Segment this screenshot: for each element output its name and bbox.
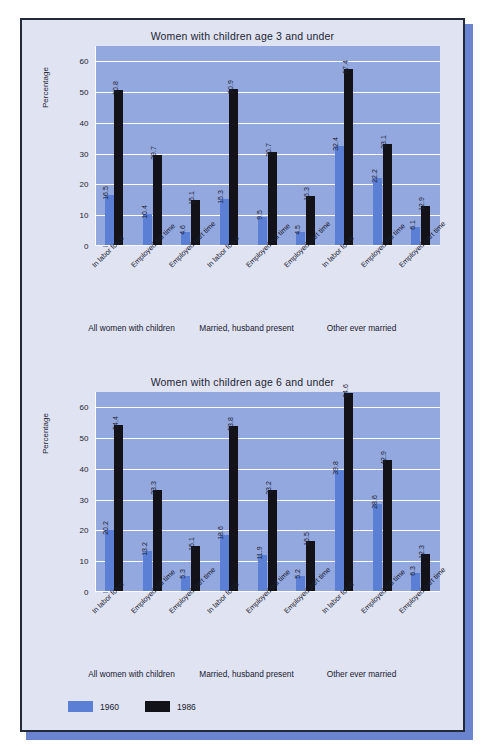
- chart-women-children-age-3: Women with children age 3 and under Perc…: [22, 30, 463, 360]
- bar-value-label: 4.6: [179, 225, 186, 235]
- x-axis-group-label: Married, husband present: [199, 323, 294, 333]
- bar-series-container: 16.550.810.429.74.615.115.350.99.530.74.…: [96, 46, 440, 246]
- bar-value-label: 50.9: [227, 81, 234, 95]
- bar-1960: 20.2: [105, 530, 114, 592]
- y-axis-tick-label: 30: [80, 495, 89, 504]
- plot-area-wrapper: Percentage 0102030405060 20.254.413.233.…: [43, 392, 443, 607]
- bar-value-label: 22.2: [371, 169, 378, 183]
- bar-1986: 53.8: [229, 426, 238, 592]
- bar-value-label: 18.6: [217, 526, 224, 540]
- bar-value-label: 33.1: [380, 135, 387, 149]
- x-axis-group-label: Other ever married: [327, 323, 397, 333]
- y-axis-ticks: 0102030405060: [57, 392, 95, 592]
- bar-value-label: 53.8: [227, 418, 234, 432]
- legend-item: 1986: [145, 701, 196, 712]
- x-axis-group-label: All women with children: [88, 323, 175, 333]
- bar-value-label: 15.3: [217, 190, 224, 204]
- x-axis-group-label: All women with children: [88, 669, 175, 679]
- bar-1986: 42.9: [383, 460, 392, 592]
- bar-1986: 64.6: [344, 393, 353, 592]
- chart-title: Women with children age 6 and under: [22, 376, 463, 388]
- y-axis-tick-label: 20: [80, 526, 89, 535]
- bar-value-label: 57.4: [342, 61, 349, 75]
- bar-1960: 18.6: [220, 535, 229, 592]
- bar-1960: 32.4: [335, 146, 344, 246]
- legend-swatch-1986: [145, 701, 170, 712]
- bar-value-label: 15.1: [188, 537, 195, 551]
- x-axis-group-labels: All women with childrenMarried, husband …: [74, 323, 419, 339]
- y-axis-tick-label: 40: [80, 464, 89, 473]
- bar-value-label: 32.4: [332, 138, 339, 152]
- chart-legend: 19601986: [22, 701, 463, 712]
- bar-value-label: 10.4: [141, 205, 148, 219]
- y-axis-ticks: 0102030405060: [57, 46, 95, 246]
- bar-1986: 50.8: [114, 90, 123, 246]
- bar-value-label: 6.3: [409, 566, 416, 576]
- bar-series-container: 20.254.413.233.35.315.118.653.811.933.25…: [96, 392, 440, 592]
- y-axis-label: Percentage: [41, 67, 50, 108]
- bar-value-label: 16.5: [102, 186, 109, 200]
- bar-value-label: 16.5: [303, 532, 310, 546]
- bar-1960: 39.8: [335, 470, 344, 592]
- bar-value-label: 16.3: [303, 187, 310, 201]
- bar-value-label: 5.2: [294, 569, 301, 579]
- plot-area-wrapper: Percentage 0102030405060 16.550.810.429.…: [43, 46, 443, 261]
- bar-value-label: 20.2: [102, 521, 109, 535]
- bar-1960: 28.6: [373, 504, 382, 592]
- bar-value-label: 33.3: [150, 481, 157, 495]
- y-axis-label: Percentage: [41, 413, 50, 454]
- bar-value-label: 30.7: [265, 143, 272, 157]
- bar-1960: 16.5: [105, 195, 114, 246]
- bar-value-label: 29.7: [150, 146, 157, 160]
- bar-value-label: 6.1: [409, 220, 416, 230]
- bar-value-label: 12.3: [418, 545, 425, 559]
- legend-label: 1960: [100, 702, 119, 712]
- bar-value-label: 50.8: [112, 81, 119, 95]
- bar-value-label: 12.9: [418, 198, 425, 212]
- y-axis-tick-label: 50: [80, 434, 89, 443]
- bar-1986: 54.4: [114, 425, 123, 592]
- bar-value-label: 42.9: [380, 451, 387, 465]
- y-axis-tick-label: 30: [80, 149, 89, 158]
- y-axis-tick-label: 10: [80, 557, 89, 566]
- plot-area: 16.550.810.429.74.615.115.350.99.530.74.…: [95, 46, 440, 246]
- bar-1960: 22.2: [373, 178, 382, 246]
- chart-page: Women with children age 3 and under Perc…: [20, 18, 465, 732]
- plot-area: 20.254.413.233.35.315.118.653.811.933.25…: [95, 392, 440, 592]
- bar-value-label: 4.5: [294, 225, 301, 235]
- y-axis-tick-label: 0: [84, 242, 88, 251]
- legend-item: 1960: [68, 701, 119, 712]
- legend-swatch-1960: [68, 701, 93, 712]
- x-axis-group-label: Other ever married: [327, 669, 397, 679]
- y-axis-tick-label: 0: [84, 588, 88, 597]
- y-axis-tick-label: 50: [80, 88, 89, 97]
- bar-value-label: 64.6: [342, 384, 349, 398]
- bar-value-label: 11.9: [256, 547, 263, 560]
- x-axis-category-labels: In labor forceEmployed full timeEmployed…: [74, 607, 419, 669]
- x-axis-group-labels: All women with childrenMarried, husband …: [74, 669, 419, 685]
- bar-value-label: 9.5: [256, 210, 263, 220]
- chart-women-children-age-6: Women with children age 6 and under Perc…: [22, 376, 463, 706]
- x-axis-category-labels: In labor forceEmployed full timeEmployed…: [74, 261, 419, 323]
- bar-value-label: 39.8: [332, 461, 339, 475]
- bar-value-label: 33.2: [265, 481, 272, 495]
- bar-1986: 50.9: [229, 89, 238, 246]
- bar-value-label: 15.1: [188, 191, 195, 205]
- bar-value-label: 28.6: [371, 495, 378, 509]
- chart-title: Women with children age 3 and under: [22, 30, 463, 42]
- y-axis-tick-label: 60: [80, 403, 89, 412]
- bar-value-label: 13.2: [141, 543, 148, 557]
- y-axis-tick-label: 20: [80, 180, 89, 189]
- y-axis-tick-label: 60: [80, 57, 89, 66]
- bar-value-label: 54.4: [112, 416, 119, 430]
- y-axis-tick-label: 10: [80, 211, 89, 220]
- legend-label: 1986: [177, 702, 196, 712]
- bar-value-label: 5.3: [179, 569, 186, 579]
- bar-1986: 57.4: [344, 69, 353, 246]
- y-axis-tick-label: 40: [80, 118, 89, 127]
- x-axis-group-label: Married, husband present: [199, 669, 294, 679]
